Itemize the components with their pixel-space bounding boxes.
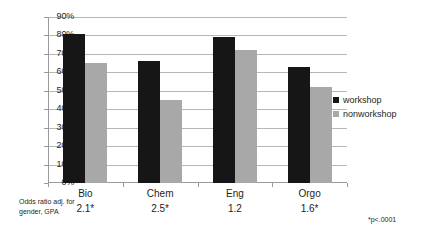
- bar-group: [138, 17, 182, 183]
- legend-label-workshop: workshop: [343, 93, 382, 107]
- chart-footnote: *p<.0001: [368, 216, 396, 223]
- category-name: Eng: [226, 188, 244, 199]
- legend-swatch-nonworkshop: [333, 111, 339, 117]
- x-axis-label-chem: Chem2.5*: [125, 188, 195, 215]
- bar-orgo-workshop[interactable]: [288, 67, 310, 183]
- x-axis-tick-mark: [272, 183, 273, 187]
- bar-group: [288, 17, 332, 183]
- bar-chart: 0%10%20%30%40%50%60%70%80%90% Bio2.1*Che…: [0, 0, 426, 243]
- x-axis-label-orgo: Orgo1.6*: [275, 188, 345, 215]
- category-name: Chem: [147, 188, 174, 199]
- bar-eng-workshop[interactable]: [213, 37, 235, 183]
- legend: workshop nonworkshop: [333, 93, 397, 121]
- bars-layer: [48, 17, 347, 183]
- bar-bio-workshop[interactable]: [63, 34, 85, 183]
- bar-bio-nonworkshop[interactable]: [85, 63, 107, 183]
- bar-chem-workshop[interactable]: [138, 61, 160, 183]
- odds-ratio-value: 1.2: [200, 203, 270, 215]
- legend-label-nonworkshop: nonworkshop: [343, 107, 397, 121]
- bar-orgo-nonworkshop[interactable]: [310, 87, 332, 183]
- category-name: Orgo: [299, 188, 321, 199]
- bar-chem-nonworkshop[interactable]: [160, 100, 182, 183]
- bar-group: [213, 17, 257, 183]
- odds-ratio-value: 2.5*: [125, 203, 195, 215]
- bar-eng-nonworkshop[interactable]: [235, 50, 257, 183]
- x-axis-label-eng: Eng1.2: [200, 188, 270, 215]
- x-axis-tick-mark: [123, 183, 124, 187]
- x-axis-tick-mark: [48, 183, 49, 187]
- x-axis-tick-mark: [347, 183, 348, 187]
- legend-item-nonworkshop[interactable]: nonworkshop: [333, 107, 397, 121]
- odds-ratio-value: 1.6*: [275, 203, 345, 215]
- legend-swatch-workshop: [333, 97, 339, 103]
- chart-caption: Odds ratio adj. for gender, GPA: [19, 197, 83, 216]
- legend-item-workshop[interactable]: workshop: [333, 93, 397, 107]
- bar-group: [63, 17, 107, 183]
- x-axis-tick-mark: [198, 183, 199, 187]
